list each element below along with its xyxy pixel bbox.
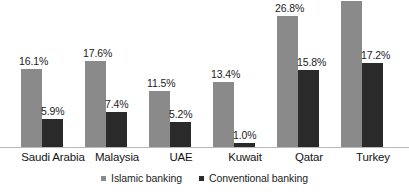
legend-item-islamic-banking: Islamic banking	[101, 172, 182, 184]
legend-item-conventional-banking: Conventional banking	[199, 172, 308, 184]
legend-label: Conventional banking	[209, 172, 308, 184]
bar-value-label: 16.1%	[19, 56, 48, 67]
category-label: Saudi Arabia	[21, 151, 85, 164]
bar-group: 26.8% 15.8%	[277, 0, 341, 148]
bar-conventional-banking	[362, 63, 383, 148]
legend-swatch-icon	[199, 176, 204, 181]
bar-group: 11.5% 5.2%	[149, 0, 213, 148]
bar-islamic-banking	[21, 69, 42, 148]
bar-value-label: 17.2%	[361, 50, 390, 61]
bar-value-label: 11.5%	[147, 78, 176, 89]
bar-conventional-banking	[170, 122, 191, 148]
bar-group: 29.9% 17.2%	[341, 0, 405, 148]
bar-value-label: 17.6%	[83, 48, 112, 59]
bar-value-label: 15.8%	[297, 57, 326, 68]
bar-value-label: 13.4%	[211, 69, 240, 80]
bar-value-label: 5.2%	[169, 109, 193, 120]
bar-islamic-banking	[85, 61, 106, 148]
bar-value-label: 7.4%	[105, 99, 129, 110]
chart-legend: Islamic banking Conventional banking	[0, 172, 409, 184]
bar-value-label: 5.9%	[41, 106, 65, 117]
bar-group: 13.4% 1.0%	[213, 0, 277, 148]
bar-value-label: 26.8%	[275, 3, 304, 14]
bar-group: 16.1% 5.9%	[21, 0, 85, 148]
bar-conventional-banking	[298, 70, 319, 148]
bar-conventional-banking	[106, 112, 127, 148]
bar-islamic-banking	[213, 82, 234, 148]
legend-swatch-icon	[101, 176, 106, 181]
bar-conventional-banking	[42, 119, 63, 148]
bar-group: 17.6% 7.4%	[85, 0, 149, 148]
category-label: UAE	[149, 151, 213, 164]
bar-islamic-banking	[341, 1, 362, 148]
legend-label: Islamic banking	[111, 172, 182, 184]
bar-value-label: 1.0%	[233, 130, 257, 141]
category-label: Turkey	[341, 151, 405, 164]
bar-islamic-banking	[277, 16, 298, 148]
axis-baseline	[0, 147, 409, 148]
plot-area: 16.1% 5.9% 17.6% 7.4% 11.5% 5.2% 13.4% 1…	[0, 0, 409, 148]
category-label: Qatar	[277, 151, 341, 164]
bar-chart: 16.1% 5.9% 17.6% 7.4% 11.5% 5.2% 13.4% 1…	[0, 0, 409, 195]
bar-islamic-banking	[149, 91, 170, 148]
category-label: Kuwait	[213, 151, 277, 164]
category-label: Malaysia	[85, 151, 149, 164]
